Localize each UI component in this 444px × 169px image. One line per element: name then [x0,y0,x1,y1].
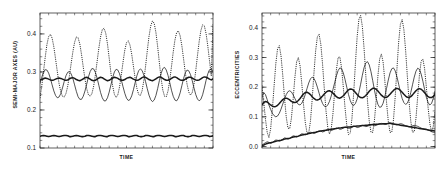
chart-panel-eccentricities: ECCENTRICITIES TIME 0.00.10.20.30.4 [222,0,444,169]
y-tick-label: 0.4 [240,24,258,31]
y-tick-label: 0.2 [240,83,258,90]
y-tick-label: 0.3 [18,68,36,75]
series-inner-body-thick-solid [262,88,435,106]
chart-panel-semi-major-axes: SEMI-MAJOR AXES (AU) TIME 0.10.20.30.4 [0,0,222,169]
y-tick-label: 0.1 [240,113,258,120]
figure-container: SEMI-MAJOR AXES (AU) TIME 0.10.20.30.4 E… [0,0,444,169]
x-axis-label-right: TIME [262,154,435,160]
series-inner-body-thick-solid-upper [40,77,213,81]
y-tick-label: 0.1 [18,144,36,151]
x-axis-label-left: TIME [40,154,213,160]
y-tick-label: 0.4 [18,30,36,37]
y-tick-label: 0.3 [240,54,258,61]
series-outer-body-dotted [262,15,435,137]
y-tick-label: 0.2 [18,106,36,113]
series-innermost-body-thick-solid-lower [40,135,213,136]
y-tick-label: 0.0 [240,143,258,150]
series-outer-body-dotted [40,21,213,98]
